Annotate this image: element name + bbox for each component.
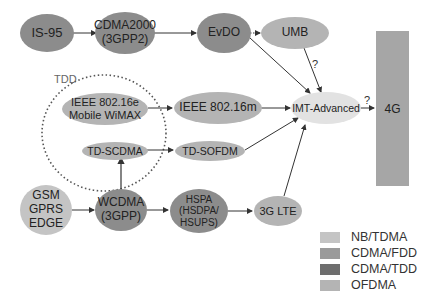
node-evdo: EvDO [197, 13, 251, 53]
node-cdma2000-label: CDMA2000 (3GPP2) [94, 19, 156, 47]
node-imt-advanced-label: IMT-Advanced [292, 102, 360, 114]
node-imt-advanced: IMT-Advanced [291, 92, 361, 124]
node-td-scdma-label: TD-SCDMA [87, 145, 142, 157]
node-ieee80216e: IEEE 802.16e Mobile WiMAX [62, 93, 148, 125]
node-wcdma: WCDMA (3GPP) [95, 189, 147, 231]
legend-label: CDMA/FDD [351, 246, 417, 260]
node-lte-label: 3G LTE [259, 205, 296, 218]
legend-item-nb-tdma: NB/TDMA [320, 230, 417, 244]
question-umb-imt: ? [312, 58, 318, 70]
legend: NB/TDMA CDMA/FDD CDMA/TDD OFDMA [320, 230, 417, 294]
legend-swatch [320, 232, 340, 243]
node-ieee80216m-label: IEEE 802.16m [179, 101, 256, 115]
node-td-scdma: TD-SCDMA [82, 142, 148, 160]
legend-swatch [320, 280, 340, 291]
4g-label: 4G [384, 102, 400, 116]
legend-item-cdma-tdd: CDMA/TDD [320, 262, 417, 276]
node-umb: UMB [261, 17, 329, 49]
node-umb-label: UMB [282, 26, 309, 40]
legend-label: CDMA/TDD [351, 262, 417, 276]
legend-item-ofdma: OFDMA [320, 278, 417, 292]
technology-evolution-diagram: IS-95 CDMA2000 (3GPP2) EvDO UMB TDD IEEE… [0, 0, 430, 302]
node-ieee80216e-label: IEEE 802.16e Mobile WiMAX [69, 96, 141, 121]
arrow-lte-imt [284, 125, 305, 196]
node-td-sofdm: TD-SOFDM [175, 141, 245, 161]
node-wcdma-label: WCDMA (3GPP) [98, 196, 145, 224]
node-hspa: HSPA (HSDPA/ HSUPS) [170, 189, 228, 233]
tdd-label: TDD [54, 73, 77, 85]
node-gsm-label: GSM GPRS EDGE [29, 189, 63, 230]
node-ieee80216m: IEEE 802.16m [174, 92, 262, 124]
node-is95: IS-95 [20, 14, 74, 52]
legend-label: NB/TDMA [351, 230, 407, 244]
arrow-tdsofdm-imt [245, 118, 298, 150]
question-imt-4g: ? [364, 94, 370, 106]
node-td-sofdm-label: TD-SOFDM [182, 145, 237, 157]
legend-label: OFDMA [351, 278, 396, 292]
node-gsm: GSM GPRS EDGE [20, 185, 72, 235]
arrow-umb-imt [304, 48, 321, 92]
node-cdma2000: CDMA2000 (3GPP2) [95, 12, 155, 54]
legend-swatch [320, 248, 340, 259]
legend-item-cdma-fdd: CDMA/FDD [320, 246, 417, 260]
node-is95-label: IS-95 [31, 26, 62, 41]
4g-bar: 4G [376, 31, 409, 186]
node-hspa-label: HSPA (HSDPA/ HSUPS) [179, 194, 219, 229]
node-lte: 3G LTE [254, 196, 302, 226]
legend-swatch [320, 264, 340, 275]
node-evdo-label: EvDO [208, 26, 240, 40]
